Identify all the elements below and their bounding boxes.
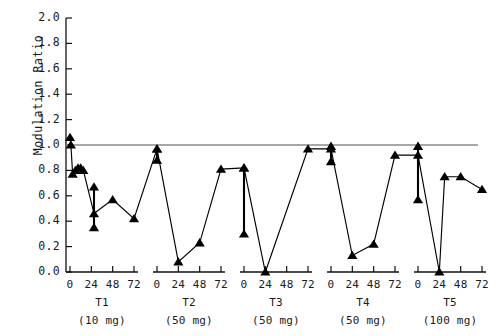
treatment-group-name: T3 bbox=[231, 296, 321, 310]
data-point-marker bbox=[369, 239, 379, 247]
x-axis-tick-label: 0 bbox=[146, 279, 168, 290]
y-axis-tick-label: 1.4 bbox=[26, 88, 60, 100]
treatment-group-dose: (10 mg) bbox=[57, 314, 147, 328]
x-axis-tick-label: 24 bbox=[167, 279, 189, 290]
x-axis-tick-label: 72 bbox=[471, 279, 493, 290]
y-axis-tick-label: 0.4 bbox=[26, 215, 60, 227]
error-bar-cap-lower bbox=[413, 195, 423, 203]
error-bar-cap-lower bbox=[89, 223, 99, 231]
y-axis-tick-label: 2.0 bbox=[26, 12, 60, 24]
x-axis-tick-label: 24 bbox=[254, 279, 276, 290]
y-axis-tick-label: 0.0 bbox=[26, 266, 60, 278]
x-axis-tick-label: 72 bbox=[210, 279, 232, 290]
treatment-group-label: T5(100 mg) bbox=[405, 296, 495, 328]
x-axis-tick-label: 72 bbox=[123, 279, 145, 290]
treatment-group-label: T2(50 mg) bbox=[144, 296, 234, 328]
y-axis-tick-label: 1.2 bbox=[26, 114, 60, 126]
x-axis-tick-label: 0 bbox=[407, 279, 429, 290]
x-axis-tick-label: 48 bbox=[276, 279, 298, 290]
error-bar-cap-upper bbox=[413, 142, 423, 150]
data-point-marker bbox=[195, 238, 205, 246]
error-bar-cap-lower bbox=[326, 157, 336, 165]
x-axis-tick-label: 24 bbox=[428, 279, 450, 290]
error-bar-cap-lower bbox=[239, 229, 249, 237]
x-axis-tick-label: 48 bbox=[363, 279, 385, 290]
chart-figure: Modulation Ratio 0.00.20.40.60.81.01.21.… bbox=[0, 0, 501, 336]
y-axis-tick-label: 0.8 bbox=[26, 164, 60, 176]
series-markers bbox=[65, 133, 487, 276]
treatment-group-name: T4 bbox=[318, 296, 408, 310]
treatment-group-dose: (50 mg) bbox=[231, 314, 321, 328]
data-point-marker bbox=[108, 195, 118, 203]
y-axis-tick-label: 1.6 bbox=[26, 63, 60, 75]
error-bars bbox=[89, 142, 423, 238]
y-axis-tick-label: 0.6 bbox=[26, 190, 60, 202]
treatment-group-label: T1(10 mg) bbox=[57, 296, 147, 328]
y-axis-tick-label: 0.2 bbox=[26, 241, 60, 253]
x-axis-tick-label: 0 bbox=[233, 279, 255, 290]
treatment-group-dose: (50 mg) bbox=[144, 314, 234, 328]
x-axis-tick-label: 48 bbox=[102, 279, 124, 290]
y-axis-tick-label: 1.8 bbox=[26, 37, 60, 49]
x-axis-tick-label: 0 bbox=[59, 279, 81, 290]
x-axis-tick-label: 24 bbox=[80, 279, 102, 290]
treatment-group-dose: (50 mg) bbox=[318, 314, 408, 328]
x-axis-tick-label: 48 bbox=[450, 279, 472, 290]
error-bar-cap-upper bbox=[89, 182, 99, 190]
x-axis-tick-label: 24 bbox=[341, 279, 363, 290]
data-point-marker bbox=[89, 209, 99, 217]
x-axis-tick-label: 72 bbox=[384, 279, 406, 290]
treatment-group-name: T1 bbox=[57, 296, 147, 310]
x-axis-tick-label: 72 bbox=[297, 279, 319, 290]
x-axis-tick-label: 48 bbox=[189, 279, 211, 290]
y-axis-tick-label: 1.0 bbox=[26, 139, 60, 151]
treatment-group-dose: (100 mg) bbox=[405, 314, 495, 328]
data-point-marker bbox=[477, 185, 487, 193]
x-axis-tick-label: 0 bbox=[320, 279, 342, 290]
treatment-group-name: T2 bbox=[144, 296, 234, 310]
data-point-marker bbox=[347, 251, 357, 259]
treatment-group-name: T5 bbox=[405, 296, 495, 310]
data-point-marker bbox=[239, 163, 249, 171]
treatment-group-label: T4(50 mg) bbox=[318, 296, 408, 328]
treatment-group-label: T3(50 mg) bbox=[231, 296, 321, 328]
